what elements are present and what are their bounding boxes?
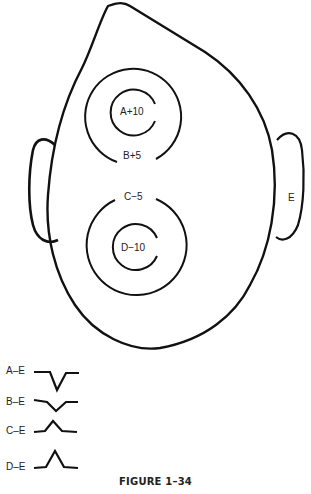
waveform-d-e [34, 451, 78, 468]
waveform-label-d-e: D–E [6, 461, 25, 473]
waveform-label-a-e: A–E [6, 365, 25, 377]
head-outline [47, 3, 274, 349]
head-diagram [0, 0, 311, 494]
waveform-a-e [34, 372, 79, 390]
right-ear [276, 133, 304, 239]
label-b: B+5 [123, 150, 141, 162]
label-d: D−10 [121, 242, 145, 254]
waveform-c-e [34, 421, 77, 432]
label-c: C−5 [124, 191, 143, 203]
label-a: A+10 [120, 106, 144, 118]
waveform-b-e [34, 400, 78, 411]
label-e: E [288, 192, 295, 204]
waveform-label-c-e: C–E [6, 425, 25, 437]
figure-caption: FIGURE 1–34 [0, 476, 311, 487]
waveform-label-b-e: B–E [6, 396, 25, 408]
